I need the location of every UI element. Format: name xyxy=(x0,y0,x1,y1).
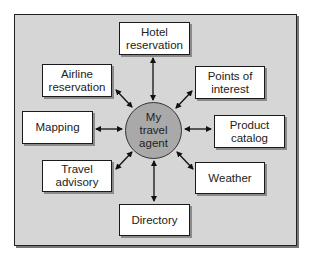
node-airline-reservation: Airline reservation xyxy=(42,64,112,97)
hub-label: My travel agent xyxy=(139,111,168,150)
node-label: Points of interest xyxy=(208,70,253,96)
node-points-of-interest: Points of interest xyxy=(195,66,265,99)
node-label: Directory xyxy=(131,214,177,227)
node-mapping: Mapping xyxy=(22,111,93,144)
node-label: Mapping xyxy=(35,121,79,134)
node-label: Airline reservation xyxy=(49,68,106,94)
node-product-catalog: Product catalog xyxy=(214,115,285,148)
node-hotel-reservation: Hotel reservation xyxy=(119,22,190,55)
node-directory: Directory xyxy=(119,204,190,236)
node-label: Product catalog xyxy=(230,119,270,145)
node-weather: Weather xyxy=(195,162,265,194)
node-travel-advisory: Travel advisory xyxy=(42,160,112,192)
node-label: Travel advisory xyxy=(56,163,99,189)
node-label: Weather xyxy=(208,172,251,185)
hub-my-travel-agent: My travel agent xyxy=(125,102,182,159)
node-label: Hotel reservation xyxy=(126,26,183,52)
